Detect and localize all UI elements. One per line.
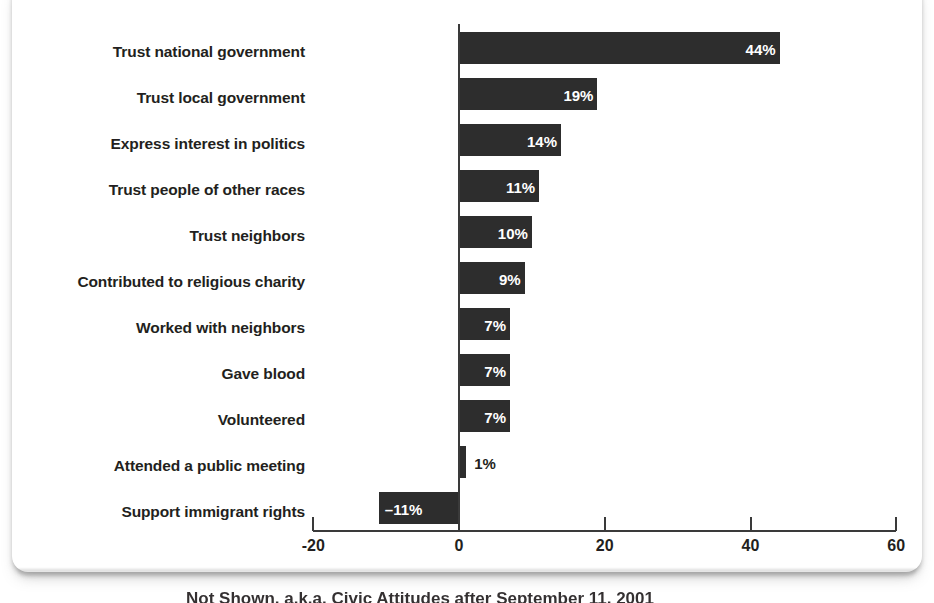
bar-value-label: 14% xyxy=(517,134,557,149)
bar-value-label: –11% xyxy=(385,502,445,517)
bar-value-label: 7% xyxy=(466,364,506,379)
x-axis-tick xyxy=(604,517,606,531)
x-axis-tick xyxy=(458,517,460,531)
bar-value-label: 19% xyxy=(553,88,593,103)
bar-value-label: 11% xyxy=(495,180,535,195)
bar-value-label: 1% xyxy=(474,456,514,471)
category-label: Express interest in politics xyxy=(5,136,305,152)
bar-value-label: 9% xyxy=(481,272,521,287)
category-label: Trust national government xyxy=(5,44,305,60)
category-label: Trust neighbors xyxy=(5,228,305,244)
category-label: Worked with neighbors xyxy=(5,320,305,336)
x-axis-tick-label: 0 xyxy=(419,538,499,554)
y-axis-line xyxy=(458,24,460,531)
figure-caption: Not Shown, a.k.a. Civic Attitudes after … xyxy=(186,590,886,603)
category-label: Gave blood xyxy=(5,366,305,382)
bar-chart: Trust national government Trust local go… xyxy=(0,0,934,603)
category-label: Trust local government xyxy=(5,90,305,106)
bar-value-label: 7% xyxy=(466,318,506,333)
x-axis-tick-label: -20 xyxy=(273,538,353,554)
x-axis-tick xyxy=(895,517,897,531)
category-label: Volunteered xyxy=(5,412,305,428)
x-axis-tick-label: 40 xyxy=(711,538,791,554)
bar xyxy=(459,446,466,478)
category-label: Attended a public meeting xyxy=(5,458,305,474)
x-axis-tick-label: 60 xyxy=(856,538,934,554)
bar-value-label: 44% xyxy=(736,42,776,57)
bar-value-label: 10% xyxy=(488,226,528,241)
x-axis-tick xyxy=(750,517,752,531)
category-label: Contributed to religious charity xyxy=(5,274,305,290)
category-label: Support immigrant rights xyxy=(5,504,305,520)
category-label: Trust people of other races xyxy=(5,182,305,198)
x-axis-tick-label: 20 xyxy=(565,538,645,554)
bar xyxy=(459,32,780,64)
bar-value-label: 7% xyxy=(466,410,506,425)
x-axis-tick xyxy=(312,517,314,531)
